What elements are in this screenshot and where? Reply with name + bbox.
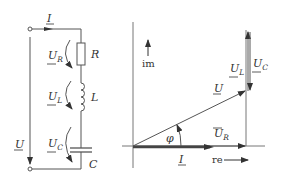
voltage-label-ul: UL: [48, 90, 62, 105]
top-terminal: [28, 27, 32, 31]
voltage-label-uc: UC: [48, 137, 63, 152]
vector-uc-label: UC: [253, 57, 268, 72]
phasor-diagram: im re UR I U UL UC φ: [122, 22, 268, 168]
phase-angle-label: φ: [166, 132, 174, 145]
phase-angle-arc: [177, 125, 181, 146]
vector-ul-label: UL: [230, 62, 244, 77]
voltage-label-ur: UR: [48, 49, 63, 64]
vector-ur-label: UR: [214, 127, 229, 142]
resistor-label: R: [90, 48, 99, 61]
voltage-arrow-ur: [65, 40, 72, 68]
vector-i-label: I: [178, 153, 184, 166]
resistor: [77, 43, 85, 65]
im-axis-label: im: [142, 58, 155, 69]
re-axis-label: re: [212, 154, 223, 165]
circuit-diagram: I R L C U UR UL UC: [14, 12, 99, 171]
capacitor-label: C: [89, 158, 98, 171]
inductor-label: L: [90, 91, 98, 104]
voltage-arrow-uc: [66, 127, 72, 162]
source-voltage-label: U: [15, 138, 25, 151]
bottom-terminal: [28, 167, 32, 171]
vector-u-label: U: [214, 82, 224, 95]
voltage-arrow-ul: [66, 81, 72, 109]
current-label: I: [46, 12, 52, 25]
inductor: [81, 83, 85, 111]
current-arrow-icon: [44, 27, 53, 31]
